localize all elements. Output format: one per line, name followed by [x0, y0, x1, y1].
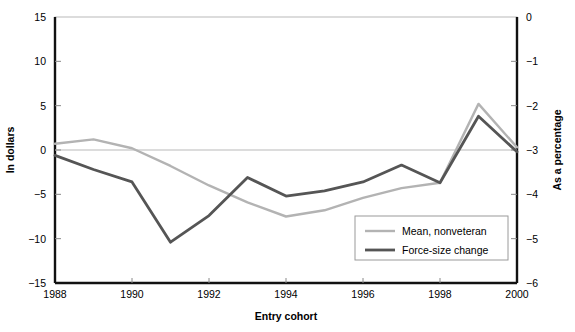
- y-tick-label: 15: [34, 11, 46, 23]
- y2-tick-label: −2: [526, 100, 538, 112]
- x-axis-title: Entry cohort: [255, 310, 318, 322]
- y-tick-label: 5: [40, 100, 46, 112]
- y2-tick-label: −5: [526, 233, 538, 245]
- y-tick-label: −15: [28, 277, 46, 289]
- chart-figure: 1988199019921994199619982000 151050−5−10…: [0, 0, 575, 332]
- legend-label-1: Force-size change: [402, 244, 489, 256]
- x-axis-ticks: 1988199019921994199619982000: [43, 278, 529, 300]
- y2-tick-label: −4: [526, 188, 538, 200]
- y-tick-label: 0: [40, 144, 46, 156]
- line-chart: 1988199019921994199619982000 151050−5−10…: [0, 0, 575, 332]
- legend-label-0: Mean, nonveteran: [402, 225, 487, 237]
- y-tick-label: −10: [28, 233, 46, 245]
- x-tick-label: 1988: [43, 288, 67, 300]
- x-tick-label: 1998: [428, 288, 452, 300]
- y-tick-label: −5: [34, 188, 46, 200]
- y2-tick-label: 0: [526, 11, 532, 23]
- y-tick-label: 10: [34, 55, 46, 67]
- y-axis-right-title: As a percentage: [551, 109, 563, 190]
- series-line-0: [55, 104, 517, 217]
- x-tick-label: 1992: [197, 288, 221, 300]
- y2-tick-label: −1: [526, 55, 538, 67]
- x-tick-label: 1996: [351, 288, 375, 300]
- x-tick-label: 1990: [120, 288, 144, 300]
- y2-tick-label: −3: [526, 144, 538, 156]
- y2-tick-label: −6: [526, 277, 538, 289]
- chart-legend: Mean, nonveteranForce-size change: [355, 216, 508, 260]
- x-tick-label: 1994: [274, 288, 298, 300]
- x-tick-label: 2000: [505, 288, 529, 300]
- y-axis-left-title: In dollars: [4, 127, 16, 174]
